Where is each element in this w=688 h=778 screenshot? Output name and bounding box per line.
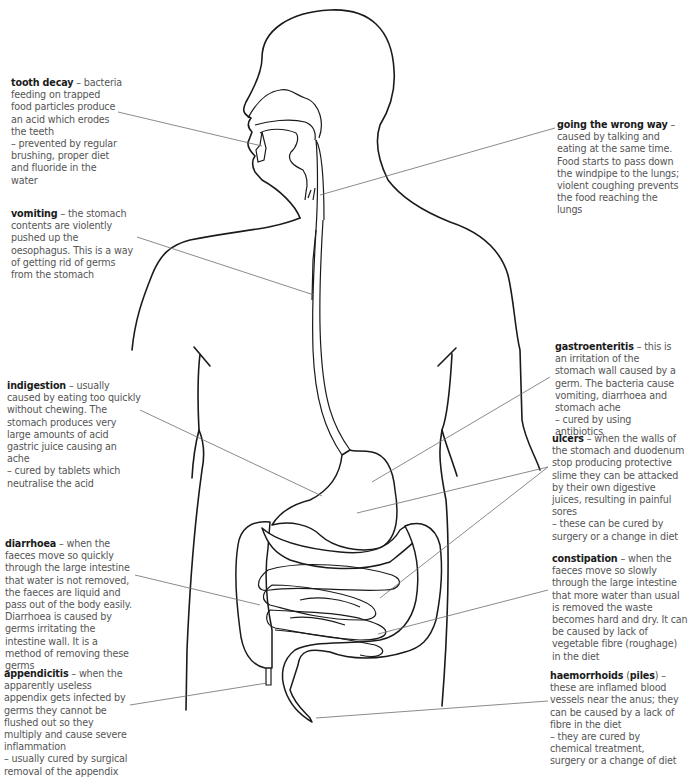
desc-constipation: – when the faeces move so slowly through… (552, 553, 688, 662)
label-gastroenteritis: gastroenteritis – this is an irritation … (555, 341, 681, 439)
label-constipation: constipation – when the faeces move so s… (552, 553, 688, 663)
desc-appendicitis: – when the apparently useless appendix g… (4, 668, 127, 777)
term-indigestion: indigestion (7, 380, 66, 391)
label-vomiting: vomiting – the stomach contents are viol… (11, 208, 135, 281)
term-vomiting: vomiting (11, 208, 58, 219)
body-outline (132, 10, 540, 710)
term-appendicitis: appendicitis (4, 668, 68, 679)
term-piles: piles (630, 670, 655, 681)
label-indigestion: indigestion – usually caused by eating t… (7, 380, 141, 490)
oesophagus (313, 220, 350, 455)
label-haemorrhoids: haemorrhoids (piles) – these are inflame… (550, 670, 680, 768)
appendix (266, 668, 271, 685)
label-tooth-decay: tooth decay – bacteria feeding on trappe… (11, 77, 123, 187)
term-haemorrhoids: haemorrhoids (550, 670, 623, 681)
term-tooth-decay: tooth decay (11, 77, 73, 88)
desc-diarrhoea: – when the faeces move so quickly throug… (5, 538, 132, 671)
term-going-the-wrong-way: going the wrong way (557, 119, 668, 130)
label-appendicitis: appendicitis – when the apparently usele… (4, 668, 128, 778)
term-gastroenteritis: gastroenteritis (555, 341, 634, 352)
label-going-the-wrong-way: going the wrong way – caused by talking … (557, 119, 685, 217)
desc-tooth-decay: – bacteria feeding on trapped food parti… (11, 77, 122, 186)
term-diarrhoea: diarrhoea (5, 538, 56, 549)
desc-haemorrhoids: – these are inflamed blood vessels near … (550, 670, 679, 766)
large-intestine (236, 522, 442, 722)
mouth-and-throat (248, 90, 324, 300)
term-constipation: constipation (552, 553, 618, 564)
desc-going-the-wrong-way: – caused by talking and eating at the sa… (557, 119, 679, 215)
desc-gastroenteritis: – this is an irritation of the stomach w… (555, 341, 676, 437)
leader-lines (118, 112, 555, 718)
desc-indigestion: – usually caused by eating too quickly w… (7, 380, 141, 489)
desc-ulcers: – when the walls of the stomach and duod… (552, 433, 684, 542)
stomach (272, 450, 397, 550)
label-ulcers: ulcers – when the walls of the stomach a… (552, 433, 685, 543)
label-diarrhoea: diarrhoea – when the faeces move so quic… (5, 538, 135, 672)
term-ulcers: ulcers (552, 433, 584, 444)
